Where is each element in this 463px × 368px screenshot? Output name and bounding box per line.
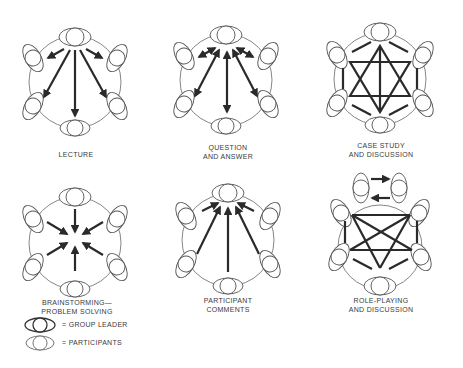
participant-icon	[213, 278, 243, 294]
label-line: LECTURE	[59, 150, 94, 159]
label-line: PARTICIPANT	[204, 296, 252, 305]
participant-icon	[103, 41, 132, 75]
diagram-role-playing	[325, 196, 436, 295]
diagram-case-study	[323, 23, 438, 133]
label-participant-comments: PARTICIPANT COMMENTS	[204, 296, 252, 314]
role-player-icon	[391, 173, 407, 203]
diagram-lecture	[19, 28, 132, 136]
legend-leader-icon	[25, 318, 55, 332]
label-question-answer: QUESTION AND ANSWER	[203, 143, 253, 161]
diagram-brainstorming	[19, 188, 132, 297]
legend-participants-text: = PARTICIPANTS	[62, 339, 122, 346]
participant-icon	[405, 196, 434, 230]
two-way-arrows	[195, 48, 257, 112]
participant-icon	[407, 240, 436, 274]
label-line: AND DISCUSSION	[349, 305, 414, 314]
label-brainstorming: BRAINSTORMING— PROBLEM SOLVING	[41, 298, 112, 316]
group-leader-icon	[210, 26, 242, 44]
label-line: AND DISCUSSION	[349, 150, 414, 159]
participant-icon	[60, 120, 90, 136]
participant-icon	[103, 89, 132, 123]
participant-icon	[409, 86, 438, 120]
role-players	[353, 173, 407, 203]
participant-icon	[323, 86, 352, 120]
label-line: PROBLEM SOLVING	[41, 307, 112, 316]
diagram-participant-comments	[172, 184, 285, 294]
role-player-icon	[353, 173, 369, 203]
legend-participant-icon	[26, 336, 54, 350]
label-line: AND ANSWER	[203, 152, 253, 161]
group-leader-icon	[212, 184, 244, 202]
arrows	[44, 49, 106, 116]
participant-icon	[254, 39, 283, 73]
participant-icon	[103, 202, 132, 236]
participant-icon	[409, 38, 438, 72]
participant-icon	[211, 118, 241, 134]
label-line: ROLE-PLAYING	[349, 296, 414, 305]
participant-icon	[60, 281, 90, 297]
diagram-question-answer	[170, 26, 283, 134]
label-case-study: CASE STUDY AND DISCUSSION	[349, 141, 414, 159]
participant-icon	[256, 199, 285, 233]
legend-leader-text: = GROUP LEADER	[62, 321, 128, 328]
arrows-to-center	[47, 209, 103, 271]
connection-lines	[343, 42, 417, 115]
label-line: QUESTION	[203, 143, 253, 152]
label-lecture: LECTURE	[59, 150, 94, 159]
participant-icon	[170, 39, 199, 73]
participant-icon	[19, 41, 48, 75]
participant-icon	[323, 38, 352, 72]
label-line: COMMENTS	[204, 305, 252, 314]
participant-icon	[19, 202, 48, 236]
participant-icon	[365, 117, 395, 133]
connection-lines	[345, 215, 417, 269]
arrows-to-leader	[197, 203, 259, 272]
label-line: CASE STUDY	[349, 141, 414, 150]
group-leader-icon	[59, 28, 91, 46]
participant-icon	[325, 240, 354, 274]
group-leader-icon	[364, 23, 396, 41]
label-line: BRAINSTORMING—	[41, 298, 112, 307]
group-leader-icon	[364, 277, 396, 295]
participant-icon	[256, 247, 285, 281]
label-role-playing: ROLE-PLAYING AND DISCUSSION	[349, 296, 414, 314]
legend	[25, 318, 55, 350]
participant-icon	[19, 89, 48, 123]
participant-icon	[172, 247, 201, 281]
participant-icon	[19, 250, 48, 284]
participant-icon	[172, 199, 201, 233]
group-leader-icon	[59, 188, 91, 206]
participant-icon	[103, 250, 132, 284]
participant-icon	[170, 87, 199, 121]
participant-icon	[327, 196, 356, 230]
participant-icon	[254, 87, 283, 121]
